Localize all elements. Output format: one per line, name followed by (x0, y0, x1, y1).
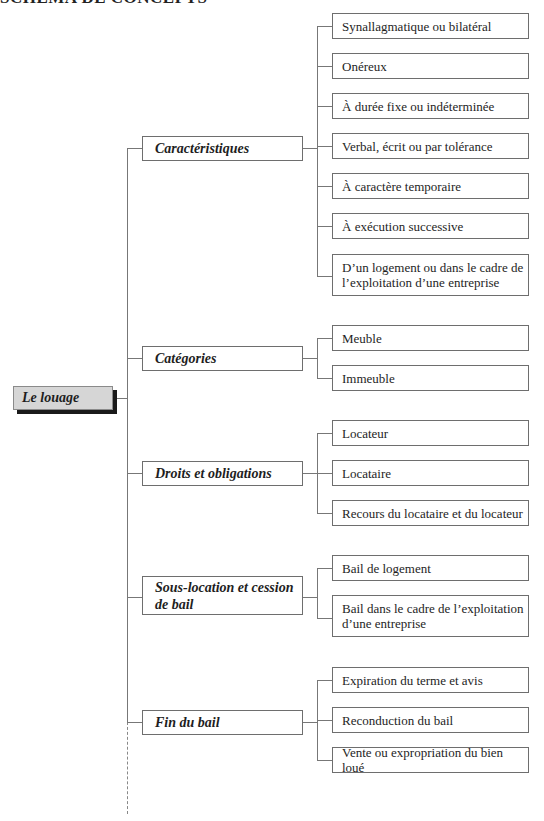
root-connector (117, 398, 127, 399)
connector (317, 276, 332, 277)
leaf-vente-expropriation: Vente ou expropriation du bien loué (332, 747, 529, 773)
category-droits-obligations: Droits et obligations (142, 461, 303, 486)
connector (127, 148, 142, 149)
connector (127, 473, 142, 474)
leaf-synallagmatique: Synallagmatique ou bilatéral (332, 13, 529, 39)
leaf-logement-entreprise: D’un logement ou dans le cadre de l’expl… (332, 254, 529, 296)
connector (317, 186, 332, 187)
leaf-bail-entreprise: Bail dans le cadre de l’exploitation d’u… (332, 595, 529, 637)
connector (317, 680, 332, 681)
branch-spine-categories (317, 338, 318, 379)
connector (317, 226, 332, 227)
leaf-locateur: Locateur (332, 420, 529, 446)
leaf-verbal: Verbal, écrit ou par tolérance (332, 133, 529, 159)
leaf-recours: Recours du locataire et du locateur (332, 500, 529, 526)
connector (317, 26, 332, 27)
connector (127, 358, 142, 359)
main-spine-dashed-continuation (127, 722, 128, 814)
leaf-immeuble: Immeuble (332, 365, 529, 391)
connector (317, 760, 332, 761)
connector (317, 720, 332, 721)
category-caracteristiques: Caractéristiques (142, 136, 303, 161)
connector (303, 722, 317, 723)
branch-spine-sous-location (317, 568, 318, 619)
leaf-expiration: Expiration du terme et avis (332, 667, 529, 693)
leaf-temporaire: À caractère temporaire (332, 173, 529, 199)
leaf-execution-successive: À exécution successive (332, 213, 529, 239)
root-node-le-louage: Le louage (13, 386, 113, 410)
connector (303, 148, 317, 149)
connector (127, 722, 142, 723)
connector (317, 106, 332, 107)
connector (317, 433, 332, 434)
page-header-title: SCHÉMA DE CONCEPTS (0, 0, 207, 8)
leaf-bail-logement: Bail de logement (332, 555, 529, 581)
leaf-locataire: Locataire (332, 460, 529, 486)
connector (317, 618, 332, 619)
connector (127, 597, 143, 598)
category-fin-du-bail: Fin du bail (142, 710, 303, 735)
main-spine (127, 148, 128, 722)
connector (317, 568, 332, 569)
leaf-meuble: Meuble (332, 325, 529, 351)
connector (317, 473, 332, 474)
connector (317, 146, 332, 147)
connector (303, 358, 317, 359)
leaf-onereux: Onéreux (332, 53, 529, 79)
connector (317, 338, 332, 339)
connector (303, 473, 317, 474)
connector (317, 66, 332, 67)
leaf-duree: À durée fixe ou indéterminée (332, 93, 529, 119)
connector (317, 378, 332, 379)
connector (303, 597, 317, 598)
connector (317, 513, 332, 514)
category-categories: Catégories (142, 346, 303, 371)
leaf-reconduction: Reconduction du bail (332, 707, 529, 733)
branch-spine-caracteristiques (317, 26, 318, 277)
category-sous-location: Sous-location et cession de bail (142, 576, 303, 615)
